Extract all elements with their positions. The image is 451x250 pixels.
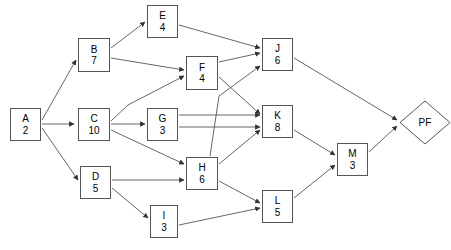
- node-g[interactable]: G 3: [147, 108, 178, 141]
- node-e[interactable]: E 4: [147, 5, 178, 38]
- node-a-label: A: [22, 113, 29, 125]
- node-pf-label: PF: [419, 117, 432, 128]
- node-d-label: D: [92, 171, 99, 183]
- node-pf[interactable]: PF: [399, 100, 451, 145]
- node-m-label: M: [348, 148, 356, 160]
- node-i[interactable]: I 3: [150, 205, 178, 238]
- node-c-duration: 10: [88, 125, 99, 137]
- node-f[interactable]: F 4: [186, 56, 218, 90]
- node-h[interactable]: H 6: [186, 157, 218, 190]
- node-a-duration: 2: [23, 125, 29, 137]
- node-f-duration: 4: [199, 73, 205, 85]
- node-d-duration: 5: [93, 183, 99, 195]
- node-h-label: H: [198, 162, 205, 174]
- node-m[interactable]: M 3: [337, 143, 368, 176]
- node-l-label: L: [275, 195, 281, 207]
- node-c[interactable]: C 10: [78, 108, 110, 141]
- network-diagram: A 2 B 7 C 10 D 5 E 4 F 4 G 3 H 6: [0, 0, 451, 250]
- node-j-label: J: [275, 43, 280, 55]
- node-a[interactable]: A 2: [10, 108, 41, 141]
- node-g-label: G: [159, 113, 167, 125]
- node-e-duration: 4: [160, 22, 166, 34]
- node-l-duration: 5: [275, 207, 281, 219]
- node-c-label: C: [90, 113, 97, 125]
- node-e-label: E: [159, 10, 166, 22]
- node-layer: A 2 B 7 C 10 D 5 E 4 F 4 G 3 H 6: [0, 0, 451, 250]
- node-f-label: F: [199, 62, 205, 74]
- node-b-label: B: [91, 44, 98, 56]
- node-i-label: I: [163, 210, 166, 222]
- node-i-duration: 3: [161, 222, 167, 234]
- node-j[interactable]: J 6: [262, 38, 293, 71]
- node-k[interactable]: K 8: [262, 105, 293, 138]
- node-h-duration: 6: [199, 174, 205, 186]
- node-d[interactable]: D 5: [80, 166, 111, 199]
- node-b[interactable]: B 7: [78, 38, 110, 72]
- node-g-duration: 3: [160, 125, 166, 137]
- node-k-duration: 8: [275, 122, 281, 134]
- node-m-duration: 3: [350, 160, 356, 172]
- node-b-duration: 7: [91, 55, 97, 67]
- node-j-duration: 6: [275, 55, 281, 67]
- node-l[interactable]: L 5: [262, 190, 293, 223]
- node-k-label: K: [274, 110, 281, 122]
